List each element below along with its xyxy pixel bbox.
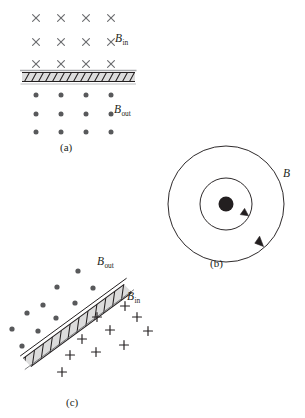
- cross-mark: [108, 15, 115, 22]
- plus-mark: [120, 341, 129, 350]
- b-subscript: in: [134, 296, 140, 305]
- dot-mark: [75, 268, 80, 273]
- panel-c-b-out-label: Bout: [97, 255, 114, 267]
- dot-mark: [34, 112, 39, 117]
- plus-mark: [58, 368, 67, 377]
- conductor-bar-horizontal: [20, 71, 142, 84]
- plus-mark: [66, 351, 75, 360]
- arrowhead-outer: [255, 236, 264, 246]
- panel-a-caption: (a): [60, 141, 72, 153]
- dot-mark: [34, 93, 39, 98]
- panel-c-caption: (c): [66, 396, 78, 408]
- cross-mark: [108, 61, 115, 68]
- plus-mark: [92, 348, 101, 357]
- cross-mark-grid: [33, 15, 115, 68]
- dot-mark: [72, 300, 77, 305]
- dot-mark: [84, 93, 89, 98]
- panel-b-b-label: B: [283, 167, 290, 179]
- dot-mark: [90, 285, 95, 290]
- dot-mark: [24, 310, 29, 315]
- plus-mark: [106, 326, 115, 335]
- dot-mark: [109, 93, 114, 98]
- panel-b-caption: (b): [210, 257, 223, 269]
- cross-mark: [58, 39, 65, 46]
- cross-mark: [108, 39, 115, 46]
- cross-mark: [83, 61, 90, 68]
- plus-mark: [121, 302, 130, 311]
- panel-c: [9, 268, 152, 376]
- b-subscript: out: [121, 109, 130, 118]
- dot-mark: [59, 130, 64, 135]
- figure-canvas: [0, 0, 305, 418]
- dot-mark: [35, 328, 40, 333]
- b-subscript: in: [122, 38, 128, 47]
- plus-mark: [133, 313, 142, 322]
- dot-mark: [9, 326, 14, 331]
- cross-mark: [33, 61, 40, 68]
- cross-mark: [83, 15, 90, 22]
- panel-c-b-in-label: Bin: [127, 290, 140, 302]
- dot-mark: [19, 343, 24, 348]
- cross-mark: [58, 61, 65, 68]
- current-dot: [219, 197, 234, 212]
- panel-a-b-in-label: Bin: [115, 32, 128, 44]
- plus-mark: [144, 327, 153, 336]
- dot-mark: [84, 130, 89, 135]
- b-subscript: out: [104, 261, 113, 270]
- conductor-bar-inclined: [20, 278, 140, 369]
- panel-b: [168, 146, 284, 262]
- dot-mark-grid: [34, 93, 114, 135]
- dot-mark: [109, 112, 114, 117]
- b-symbol: B: [283, 167, 290, 179]
- dot-mark: [40, 302, 45, 307]
- dot-mark: [109, 130, 114, 135]
- dot-mark: [34, 130, 39, 135]
- dot-mark: [53, 315, 58, 320]
- plus-mark: [78, 335, 87, 344]
- cross-mark: [33, 15, 40, 22]
- physics-figure: Bin Bout (a) B (b) Bout Bin (c): [0, 0, 305, 418]
- dot-mark: [59, 112, 64, 117]
- cross-mark: [33, 39, 40, 46]
- dot-mark: [59, 93, 64, 98]
- dot-mark: [54, 284, 59, 289]
- panel-a-b-out-label: Bout: [114, 103, 131, 115]
- cross-mark: [58, 15, 65, 22]
- dot-mark: [84, 112, 89, 117]
- arrowhead-inner: [240, 208, 248, 215]
- cross-mark: [83, 39, 90, 46]
